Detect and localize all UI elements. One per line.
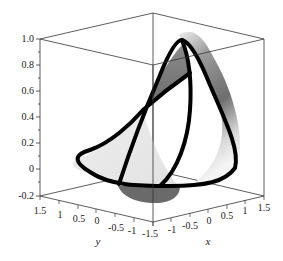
x-tick-label: 0	[207, 215, 212, 226]
x-tick-labels: -1.5 -1 -0.5 0 0.5 1 1.5	[142, 202, 270, 239]
surface-plot-3d: 1.0 0.8 0.6 0.4 0.2 0 -0.2 1.5 1 0.5 0 -…	[0, 0, 283, 261]
x-tick-label: -1	[168, 224, 176, 235]
y-tick-label: 0.5	[73, 213, 86, 224]
surface-lobe-left	[73, 110, 178, 186]
z-tick-label: 0.8	[22, 59, 35, 70]
x-tick-label: -0.5	[182, 220, 198, 231]
z-tick-label: 0.2	[22, 137, 35, 148]
y-axis-label: y	[95, 235, 101, 247]
z-axis	[36, 39, 40, 196]
y-tick-label: 0	[95, 215, 100, 226]
x-tick-label: 0.5	[221, 210, 234, 221]
y-tick-label: -0.5	[108, 222, 124, 233]
z-tick-label: 0.4	[22, 111, 35, 122]
x-tick-label: 1.5	[258, 202, 271, 213]
z-tick-label: 0	[29, 163, 34, 174]
z-tick-labels: 1.0 0.8 0.6 0.4 0.2 0 -0.2	[18, 33, 34, 201]
z-tick-label: -0.2	[18, 190, 34, 201]
y-tick-label: 1	[58, 209, 63, 220]
z-tick-label: 1.0	[22, 33, 35, 44]
z-tick-label: 0.6	[22, 85, 35, 96]
x-axis-label: x	[205, 235, 211, 247]
y-tick-label: -1	[128, 225, 136, 236]
surface-underside	[118, 186, 180, 203]
y-tick-label: 1.5	[34, 205, 47, 216]
x-tick-label: 1	[243, 205, 248, 216]
